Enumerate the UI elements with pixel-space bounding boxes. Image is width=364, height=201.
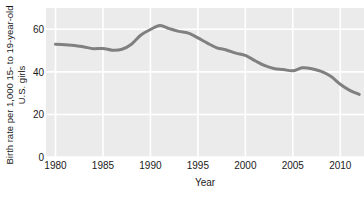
- y-tick-label: 40: [22, 66, 44, 77]
- y-axis-title-line1: Birth rate per 1,000 15- to 19-year-old: [4, 6, 15, 165]
- plot-svg: [46, 8, 364, 157]
- vertical-gridlines: [55, 8, 340, 157]
- x-tick-label: 1995: [178, 160, 218, 171]
- y-tick-label: 60: [22, 24, 44, 35]
- x-axis-title: Year: [46, 177, 364, 188]
- chart-figure: Birth rate per 1,000 15- to 19-year-old …: [0, 0, 364, 201]
- x-tick-label: 2005: [273, 160, 313, 171]
- y-tick-label: 20: [22, 109, 44, 120]
- data-series-group: [55, 25, 359, 94]
- plot-panel: [46, 8, 364, 157]
- x-tick-label: 1985: [83, 160, 123, 171]
- x-tick-label: 1990: [130, 160, 170, 171]
- x-axis-tick-labels: 1980198519901995200020052010: [46, 160, 364, 174]
- x-tick-label: 2010: [320, 160, 360, 171]
- x-tick-label: 2000: [225, 160, 265, 171]
- x-tick-label: 1980: [35, 160, 75, 171]
- series-line-0: [55, 25, 359, 94]
